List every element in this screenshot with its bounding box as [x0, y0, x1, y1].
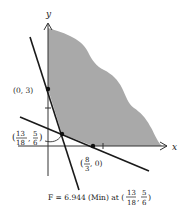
svg-text:, 0): , 0)	[90, 159, 103, 168]
svg-text:13: 13	[127, 189, 136, 197]
svg-text:): )	[148, 193, 151, 202]
feasible-region	[48, 28, 162, 146]
svg-text:6: 6	[33, 139, 38, 147]
svg-text:(: (	[80, 158, 84, 168]
label-leader	[45, 136, 61, 142]
y-axis-label: y	[45, 9, 52, 19]
svg-text:6: 6	[142, 199, 147, 207]
svg-text:18: 18	[16, 139, 25, 147]
svg-text:3: 3	[85, 165, 89, 173]
svg-text:,: ,	[28, 134, 31, 143]
svg-text:(: (	[12, 132, 16, 142]
svg-text:5: 5	[33, 130, 37, 138]
x-axis-label: x	[172, 142, 177, 152]
svg-text:8: 8	[85, 156, 89, 164]
feasible-region-figure: y x (0, 3) ( 13 18 , 5 6 )	[0, 0, 182, 211]
svg-text:): )	[39, 132, 43, 142]
svg-text:18: 18	[127, 199, 136, 207]
vertex-0-3	[46, 87, 50, 91]
vertex-min	[60, 132, 64, 136]
label-point-8-3-0: ( 8 3 , 0)	[80, 156, 103, 173]
label-point-0-3: (0, 3)	[13, 86, 33, 95]
svg-text:5: 5	[142, 189, 146, 197]
svg-text:,: ,	[137, 194, 140, 203]
label-point-min: ( 13 18 , 5 6 )	[12, 130, 43, 147]
vertex-8-3-0	[91, 144, 95, 148]
caption-prefix: F = 6.944 (Min) at (	[48, 193, 124, 202]
svg-text:13: 13	[16, 130, 25, 138]
caption: F = 6.944 (Min) at ( 13 18 , 5 6 )	[48, 189, 151, 207]
